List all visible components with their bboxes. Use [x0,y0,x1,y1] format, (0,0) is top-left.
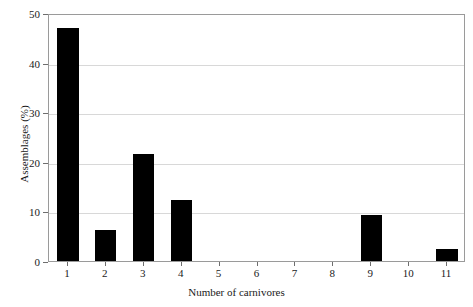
x-tick-label: 4 [178,268,184,279]
bar [133,154,154,261]
y-tick-mark [43,113,48,114]
x-tick-label: 1 [64,268,70,279]
x-tick-mark [408,262,409,266]
x-tick-label: 2 [102,268,108,279]
x-tick-label: 9 [367,268,373,279]
bar [436,249,457,261]
bar [57,28,78,261]
y-axis-title: Assemblages (%) [18,64,30,224]
x-axis-title: Number of carnivores [0,286,473,298]
gridline [49,114,464,115]
x-tick-mark [219,262,220,266]
bar [95,230,116,261]
x-tick-mark [67,262,68,266]
gridline [49,65,464,66]
x-tick-mark [332,262,333,266]
y-tick-mark [43,212,48,213]
y-tick-label: 0 [35,257,41,268]
x-tick-label: 5 [216,268,222,279]
y-tick-mark [43,64,48,65]
y-tick-mark [43,163,48,164]
x-tick-mark [257,262,258,266]
x-tick-label: 7 [292,268,298,279]
y-tick-mark [43,14,48,15]
bar [171,200,192,261]
x-tick-label: 11 [441,268,452,279]
x-tick-label: 8 [330,268,336,279]
x-tick-mark [181,262,182,266]
x-tick-label: 10 [403,268,414,279]
x-tick-mark [105,262,106,266]
bar-chart-figure: 01020304050 Number of carnivores Assembl… [0,0,473,307]
y-tick-label: 40 [29,58,40,69]
plot-area [48,14,465,262]
y-tick-label: 10 [29,207,40,218]
x-tick-mark [370,262,371,266]
y-tick-label: 30 [29,108,40,119]
x-tick-label: 6 [254,268,260,279]
y-tick-label: 20 [29,157,40,168]
x-tick-mark [294,262,295,266]
y-tick-mark [43,262,48,263]
y-tick-label: 50 [29,9,40,20]
bar [361,215,382,261]
gridline [49,213,464,214]
gridline [49,164,464,165]
x-tick-label: 3 [140,268,146,279]
x-tick-mark [446,262,447,266]
x-tick-mark [143,262,144,266]
